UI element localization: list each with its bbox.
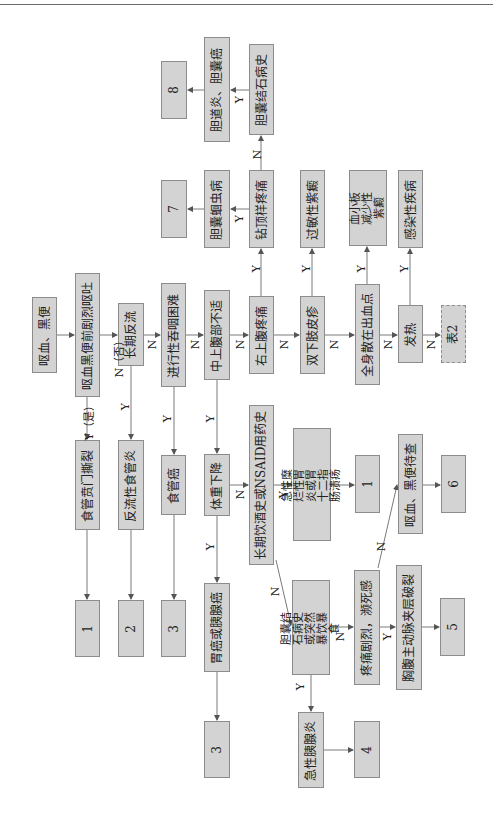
node-diagnosis-gastric-pancreatic-cancer: 胃癌或胰腺癌 — [204, 583, 230, 672]
node-question-weight-loss: 体重下降 — [204, 454, 230, 516]
edge-label-yes: Y — [381, 633, 394, 640]
node-label: 长期饮酒史或NSAID用药史 — [255, 410, 268, 560]
node-label: 发热 — [404, 322, 417, 346]
node-label: 中上腹部不适 — [211, 299, 224, 371]
node-reference-table-2[interactable]: 表2 — [441, 305, 466, 363]
node-diagnosis-gastritis-ulcer: 急性糜烂性胃炎或胃十二指肠溃疡 — [293, 428, 331, 541]
node-diagnosis-infectious-disease: 感染性疾病 — [398, 170, 423, 248]
edge-label-no: N — [234, 490, 247, 500]
node-label: 长期反流 — [125, 311, 138, 359]
node-diagnosis-allergic-purpura: 过敏性紫癜 — [300, 170, 325, 248]
edge-label-no: N — [425, 340, 438, 350]
node-result-7: 7 — [161, 180, 187, 238]
node-label: 8 — [167, 86, 181, 94]
edge-label-no: N — [278, 340, 291, 350]
node-question-drilling-pain: 钻顶样疼痛 — [249, 170, 274, 248]
node-result-1b: 1 — [355, 455, 380, 513]
node-diagnosis-cholangitis: 胆道炎、胆囊癌 — [204, 37, 230, 142]
node-label: 1 — [80, 625, 94, 633]
edge-label-yes: Y — [277, 491, 290, 498]
node-label: 全身散在出血点 — [361, 293, 374, 377]
node-label: 钻顶样疼痛 — [255, 179, 268, 239]
edge-label-no: N — [234, 340, 247, 350]
edge-label-yes: Y — [204, 415, 217, 422]
edge-label-yes: Y — [161, 415, 174, 422]
node-diagnosis-mallory-weiss: 食管贲门撕裂 — [75, 440, 100, 530]
node-diagnosis-acute-pancreatitis: 急性胰腺炎 — [298, 712, 324, 788]
node-label: 1 — [360, 480, 374, 488]
node-label: 胆囊蛔虫病 — [211, 179, 224, 239]
node-diagnosis-reflux-esophagitis: 反流性食管炎 — [118, 440, 144, 530]
node-label: 食管贲门撕裂 — [81, 449, 94, 521]
edge-label-yes: Y — [204, 543, 217, 550]
edge-label-yes: Y — [233, 96, 246, 103]
node-label: 体重下降 — [211, 461, 224, 509]
node-label: 呕血、黑便 — [38, 305, 51, 365]
node-question-fever: 发热 — [398, 305, 423, 363]
node-label: 3 — [166, 625, 180, 633]
edge-label-yes: Y — [250, 265, 263, 272]
node-result-1a: 1 — [75, 600, 100, 657]
node-label: 胃癌或胰腺癌 — [211, 592, 224, 664]
node-label: 胆囊结石病史或突然暴饮暴食 — [281, 610, 341, 646]
edge-label-no: N — [382, 340, 395, 350]
edge-label-no: N — [251, 150, 264, 160]
edge-label-no: N — [334, 632, 347, 642]
edge-label-yes: Y — [300, 265, 313, 272]
node-question-petechiae: 全身散在出血点 — [355, 284, 380, 385]
node-label: 7 — [167, 205, 181, 213]
node-label: 右上腹疼痛 — [255, 305, 268, 365]
node-question-gallstone-or-binge: 胆囊结石病史或突然暴饮暴食 — [292, 580, 330, 675]
node-result-6: 6 — [441, 455, 466, 513]
edge-label-yes: Y — [233, 215, 246, 222]
edge-label-yes: Y — [355, 265, 368, 272]
node-label: 胆囊结石病史 — [255, 54, 268, 126]
node-result-3b: 3 — [204, 721, 230, 778]
node-label: 疼痛剧烈，濒死感 — [361, 580, 374, 676]
edge-label-yes: Y — [119, 403, 132, 410]
node-label: 胸腹主动脉夹层破裂 — [403, 574, 416, 682]
node-question-dysphagia: 进行性吞咽困难 — [161, 283, 186, 387]
node-label: 血小板减少性紫癜 — [350, 190, 386, 226]
node-label: 胆道炎、胆囊癌 — [211, 48, 224, 132]
node-label: 急性糜烂性胃炎或胃十二指肠溃疡 — [282, 467, 342, 503]
node-result-5: 5 — [440, 598, 465, 656]
node-question-epigastric-discomfort: 中上腹部不适 — [204, 290, 230, 380]
node-diagnosis-biliary-ascariasis: 胆囊蛔虫病 — [204, 170, 230, 248]
node-diagnosis-pending: 呕血、黑便待查 — [398, 434, 423, 534]
edge-label-yes-full: Y（是） — [80, 400, 96, 440]
node-label: 2 — [124, 625, 138, 633]
node-label: 感染性疾病 — [404, 179, 417, 239]
node-label: 呕血黑便前剧烈呕吐 — [81, 281, 94, 389]
node-result-8: 8 — [161, 61, 187, 119]
node-label: 反流性食管炎 — [125, 449, 138, 521]
node-question-alcohol-nsaid: 长期饮酒史或NSAID用药史 — [249, 405, 274, 565]
node-label: 急性胰腺炎 — [305, 720, 318, 780]
node-start-hematemesis-melena: 呕血、黑便 — [32, 297, 57, 373]
node-label: 食管癌 — [167, 467, 180, 503]
node-label: 双下肢皮疹 — [306, 305, 319, 365]
connector-lines — [0, 0, 493, 827]
node-question-severe-pain: 疼痛剧烈，濒死感 — [354, 570, 380, 685]
node-label: 呕血、黑便待查 — [404, 442, 417, 526]
edge-label-no: N — [375, 542, 388, 552]
node-label: 6 — [446, 480, 460, 488]
edge-label-no: N — [269, 587, 282, 597]
edge-label-yes: Y — [294, 683, 307, 690]
edge-label-yes: Y — [398, 265, 411, 272]
node-question-leg-rash: 双下肢皮疹 — [300, 296, 325, 374]
node-diagnosis-thrombocytopenic-purpura: 血小板减少性紫癜 — [349, 170, 387, 246]
node-result-3a: 3 — [161, 600, 186, 657]
edge-label-no: N — [328, 340, 341, 350]
node-label: 表2 — [447, 324, 460, 344]
node-label: 5 — [445, 623, 459, 631]
edge-label-no: N — [146, 340, 159, 350]
node-question-severe-vomiting: 呕血黑便前剧烈呕吐 — [75, 273, 100, 397]
node-diagnosis-esophageal-cancer: 食管癌 — [161, 455, 186, 515]
node-diagnosis-aortic-dissection: 胸腹主动脉夹层破裂 — [396, 565, 422, 690]
node-result-4: 4 — [354, 721, 380, 778]
node-label: 过敏性紫癜 — [306, 179, 319, 239]
node-label: 4 — [360, 746, 374, 754]
edge-label-no: N — [189, 340, 202, 350]
node-label: 3 — [210, 746, 224, 754]
